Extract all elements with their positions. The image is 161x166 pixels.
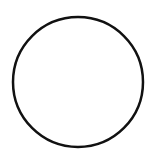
diagram-svg (0, 0, 161, 166)
diagram-canvas (0, 0, 161, 166)
circle-outline-shape (13, 17, 143, 147)
